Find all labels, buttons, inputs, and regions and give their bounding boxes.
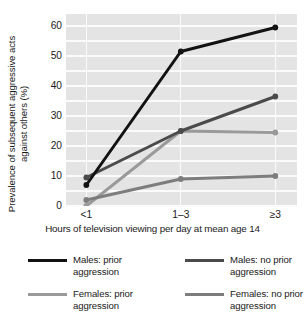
chart-figure: Prevalence of subsequent aggressive acts…	[0, 0, 305, 325]
legend-label-line2: aggression	[73, 266, 122, 278]
data-point	[83, 197, 89, 203]
legend-label-line2: aggression	[230, 266, 292, 278]
data-point	[83, 182, 89, 188]
data-point	[83, 175, 89, 181]
legend-line-swatch	[28, 293, 67, 296]
legend-label: Females: no prioraggression	[230, 288, 303, 313]
legend-label-line1: Females: prior	[73, 288, 133, 299]
legend-label-line1: Males: prior	[73, 254, 122, 265]
y-axis-tick-label: 50	[40, 51, 62, 61]
data-point	[178, 49, 184, 55]
x-axis-tick-label: 1–3	[151, 209, 211, 220]
x-axis-tick-label: ≥3	[245, 209, 305, 220]
data-point	[272, 130, 278, 136]
chart-legend: Males: prioraggressionMales: no prioragg…	[0, 252, 305, 325]
legend-item: Females: prioraggression	[28, 288, 133, 313]
legend-line-swatch	[185, 293, 224, 296]
legend-label: Males: prioraggression	[73, 254, 122, 279]
y-axis-tick-label: 60	[40, 21, 62, 31]
legend-line-swatch	[185, 259, 224, 262]
y-axis-tick-label: 30	[40, 111, 62, 121]
x-axis-tick-label: <1	[56, 209, 116, 220]
data-point	[178, 176, 184, 182]
legend-item: Males: no prioraggression	[185, 254, 292, 279]
data-point	[178, 128, 184, 134]
data-point	[272, 25, 278, 31]
y-axis-title-line1: Prevalence of subsequent aggressive acts	[6, 36, 18, 212]
legend-item: Males: prioraggression	[28, 254, 122, 279]
legend-label-line2: aggression	[73, 300, 133, 312]
y-axis-tick-label: 10	[40, 171, 62, 181]
data-point	[272, 173, 278, 179]
y-axis-title-line2: against others (%)	[18, 86, 30, 162]
legend-label-line2: aggression	[230, 300, 303, 312]
plot-area	[66, 14, 297, 206]
legend-line-swatch	[28, 259, 67, 262]
series-line	[86, 97, 275, 178]
chart-series-layer	[66, 14, 297, 206]
y-axis-tick-label: 20	[40, 141, 62, 151]
y-axis-title: Prevalence of subsequent aggressive acts…	[1, 20, 35, 228]
legend-label: Males: no prioraggression	[230, 254, 292, 279]
data-point	[272, 94, 278, 100]
legend-item: Females: no prioraggression	[185, 288, 303, 313]
legend-label-line1: Females: no prior	[230, 288, 303, 299]
y-axis-tick-label: 40	[40, 81, 62, 91]
x-axis-title: Hours of television viewing per day at m…	[0, 223, 305, 235]
legend-label-line1: Males: no prior	[230, 254, 292, 265]
legend-label: Females: prioraggression	[73, 288, 133, 313]
